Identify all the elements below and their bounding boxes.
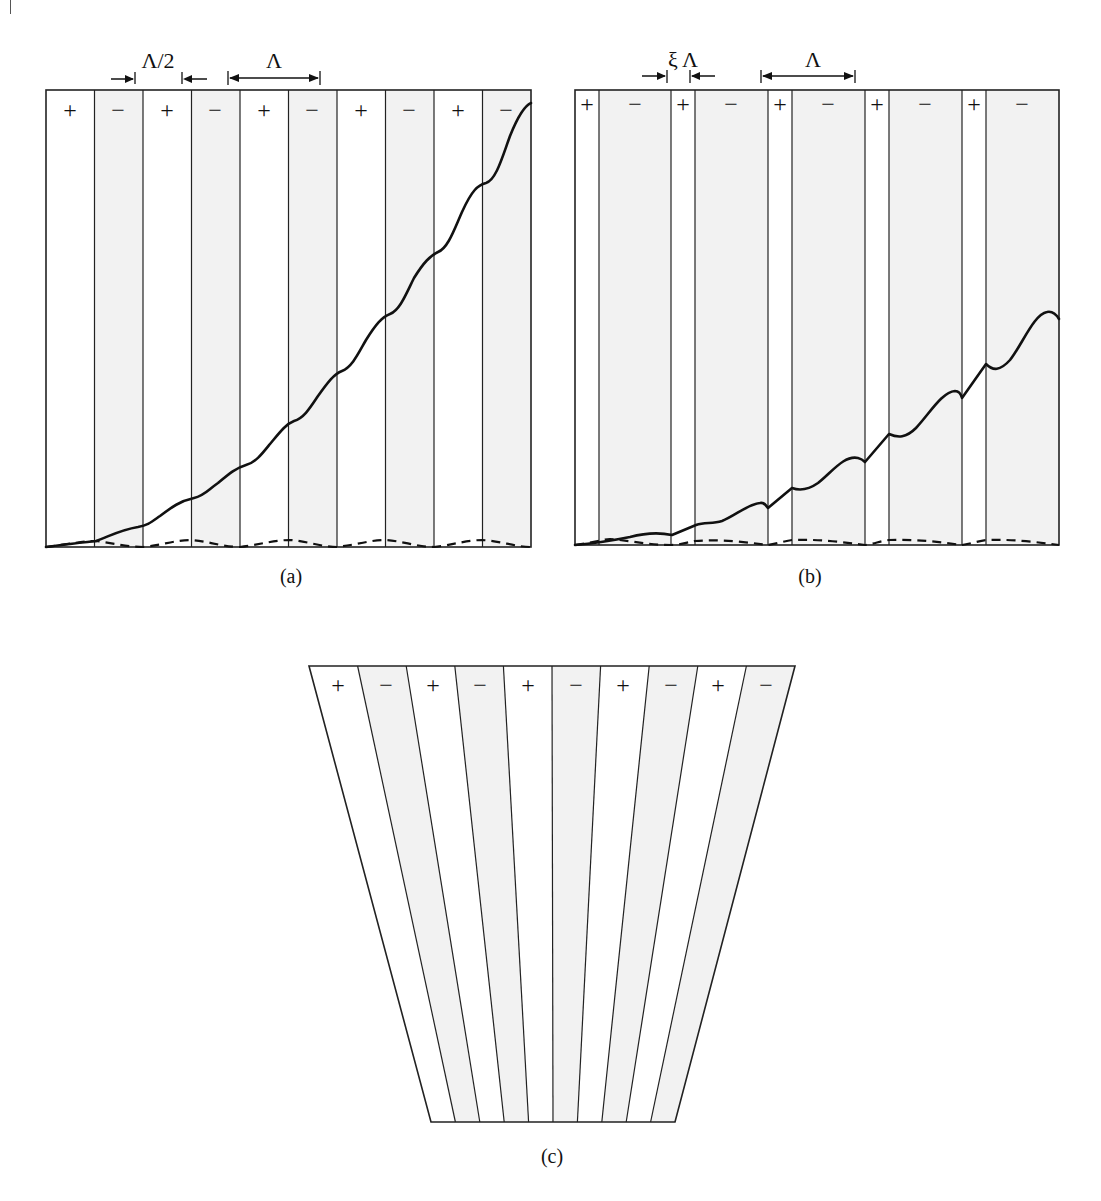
period-label: Λ — [266, 48, 282, 73]
domain-sign: + — [451, 97, 465, 123]
domain-sign: + — [711, 672, 725, 698]
duty-cycle-label: ξ Λ — [668, 47, 698, 72]
panel-b-caption: (b) — [798, 565, 821, 588]
arrow-right-icon — [125, 75, 134, 83]
arrow-right-icon — [309, 74, 319, 82]
domain-sign: − — [111, 97, 125, 123]
domain-sign: + — [160, 97, 174, 123]
arrow-left-icon — [691, 72, 700, 80]
arrow-left-icon — [183, 75, 192, 83]
domain-sign: − — [473, 672, 487, 698]
domain-sign: − — [1015, 91, 1029, 117]
domain-sign: − — [569, 672, 583, 698]
domain-sign: − — [628, 91, 642, 117]
arrow-left-icon — [762, 72, 772, 80]
domain-sign: − — [499, 97, 513, 123]
domain-sign: − — [305, 97, 319, 123]
period-label: Λ — [805, 47, 821, 72]
domain-sign: + — [331, 672, 345, 698]
domain-sign: + — [616, 672, 630, 698]
domain-sign: − — [821, 91, 835, 117]
domain-sign: − — [918, 91, 932, 117]
domain-sign: − — [208, 97, 222, 123]
panel-a-caption: (a) — [280, 565, 302, 588]
arrow-right-icon — [844, 72, 854, 80]
domain-sign: − — [379, 672, 393, 698]
domain-sign: − — [664, 672, 678, 698]
panel-b-period-annotation: Λ — [761, 47, 855, 83]
domain-sign: − — [402, 97, 416, 123]
panel-a-half-period-annotation: Λ/2 — [111, 48, 207, 84]
domain-sign: + — [967, 91, 981, 117]
domain-sign: + — [63, 97, 77, 123]
panel-b: + − + − + − + − + − ξ Λ Λ — [575, 47, 1059, 588]
domain-sign: − — [759, 672, 773, 698]
domain-sign: + — [676, 91, 690, 117]
half-period-label: Λ/2 — [141, 48, 174, 73]
panel-b-duty-cycle-annotation: ξ Λ — [642, 47, 715, 83]
domain-sign: + — [870, 91, 884, 117]
panel-c-caption: (c) — [541, 1145, 563, 1168]
arrow-right-icon — [657, 72, 666, 80]
domain-sign: + — [773, 91, 787, 117]
domain-sign: + — [426, 672, 440, 698]
panel-a-period-annotation: Λ — [228, 48, 320, 85]
domain-sign: − — [724, 91, 738, 117]
panel-c: + − + − + − + − + − (c) — [309, 666, 795, 1168]
domain-sign: + — [257, 97, 271, 123]
domain-sign: + — [521, 672, 535, 698]
domain-sign: + — [580, 91, 594, 117]
domain-sign: + — [354, 97, 368, 123]
panel-a: + − + − + − + − + − Λ/2 Λ — [46, 48, 531, 588]
arrow-left-icon — [229, 74, 239, 82]
figure: + − + − + − + − + − Λ/2 Λ — [0, 0, 1101, 1201]
